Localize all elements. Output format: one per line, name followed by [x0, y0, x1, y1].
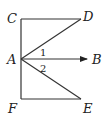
label-d: D	[82, 9, 94, 24]
angle-label-2: 2	[40, 63, 46, 74]
angle-label-1: 1	[40, 47, 46, 58]
segment-ad	[21, 19, 81, 59]
geometry-diagram: C D A B F E 1 2	[0, 0, 105, 121]
label-b: B	[91, 52, 102, 67]
label-f: F	[7, 101, 18, 116]
segment-ae	[21, 59, 81, 99]
label-e: E	[82, 101, 93, 116]
label-a: A	[6, 52, 16, 67]
label-c: C	[7, 11, 17, 26]
